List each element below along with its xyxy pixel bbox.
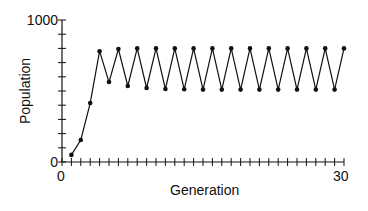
data-point [107,80,112,85]
data-point [229,46,234,51]
data-point [116,47,121,52]
data-point [191,46,196,51]
data-point [267,46,272,51]
data-point [79,138,84,143]
data-point [220,87,225,92]
data-point [144,86,149,91]
x-tick-label-max: 30 [333,169,349,183]
data-point [69,153,74,158]
data-point [295,87,300,92]
data-point [248,46,253,51]
y-tick-label-max: 1000 [27,13,58,27]
data-point [201,87,206,92]
data-point [332,87,337,92]
data-point [126,84,131,89]
data-point [154,46,159,51]
data-point [276,87,281,92]
data-point [182,87,187,92]
data-point [173,46,178,51]
data-point [97,49,102,54]
data-point [210,46,215,51]
data-point [163,87,168,92]
y-tick-label-min: 0 [50,155,58,169]
y-axis-title: Population [18,58,32,124]
data-point [285,46,290,51]
data-point [88,101,93,106]
data-point [257,87,262,92]
data-point [135,46,140,51]
line-chart [0,0,368,211]
data-point [304,46,309,51]
data-point [238,87,243,92]
series-line [71,48,344,154]
data-point [342,46,347,51]
x-tick-label-min: 0 [57,169,65,183]
data-point [323,46,328,51]
x-axis-title: Generation [170,183,239,197]
data-point [314,87,319,92]
